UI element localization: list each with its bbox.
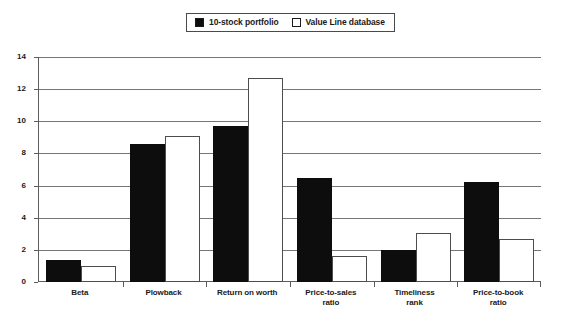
bar-0-3: [297, 178, 332, 282]
x-cat-label-5: Price-to-bookratio: [456, 288, 540, 307]
x-tick-mark-end: [540, 282, 541, 287]
x-cat-label-0: Beta: [38, 288, 122, 298]
x-cat-label-line: Beta: [38, 288, 122, 298]
x-cat-label-2: Return on worth: [205, 288, 289, 298]
y-tick-label-4: 4: [22, 214, 26, 222]
x-tick-mark-4: [374, 282, 375, 287]
x-tick-mark-1: [123, 282, 124, 287]
x-tick-mark-2: [206, 282, 207, 287]
y-tick-label-0: 0: [22, 278, 26, 286]
y-tick-mark-0: [34, 282, 38, 283]
bar-0-1: [130, 144, 165, 282]
legend-entry-value-line-database: Value Line database: [292, 18, 385, 27]
bar-1-1: [165, 136, 200, 282]
y-tick-label-10: 10: [17, 117, 26, 125]
x-cat-label-line: Price-to-sales: [289, 288, 373, 298]
x-axis-category-labels: BetaPlowbackReturn on worthPrice-to-sale…: [38, 288, 540, 316]
bar-0-4: [381, 250, 416, 282]
x-cat-label-line: Plowback: [122, 288, 206, 298]
y-axis: 02468101214: [0, 57, 32, 282]
chart-legend: 10-stock portfolio Value Line database: [186, 13, 395, 32]
bar-series-layer: [39, 57, 541, 282]
y-tick-label-8: 8: [22, 149, 26, 157]
bar-1-5: [499, 239, 534, 282]
y-tick-label-12: 12: [17, 85, 26, 93]
bar-0-5: [464, 182, 499, 282]
x-cat-label-line: Return on worth: [205, 288, 289, 298]
bar-1-0: [81, 266, 116, 282]
bar-1-2: [248, 78, 283, 282]
x-cat-label-line: ratio: [289, 298, 373, 308]
x-cat-label-4: Timelinessrank: [373, 288, 457, 307]
hollow-square-swatch-icon: [292, 18, 301, 27]
bar-1-3: [332, 256, 367, 282]
legend-label-series-2: Value Line database: [306, 18, 385, 27]
x-cat-label-line: ratio: [456, 298, 540, 308]
x-cat-label-3: Price-to-salesratio: [289, 288, 373, 307]
legend-label-series-1: 10-stock portfolio: [209, 18, 279, 27]
filled-square-swatch-icon: [195, 18, 204, 27]
x-cat-label-line: Price-to-book: [456, 288, 540, 298]
legend-entry-10-stock-portfolio: 10-stock portfolio: [195, 18, 279, 27]
x-cat-label-line: rank: [373, 298, 457, 308]
bar-0-0: [46, 260, 81, 283]
y-tick-label-2: 2: [22, 246, 26, 254]
bar-1-4: [416, 233, 451, 282]
bar-0-2: [213, 126, 248, 282]
plot-area: [38, 57, 541, 282]
x-cat-label-1: Plowback: [122, 288, 206, 298]
x-tick-mark-3: [290, 282, 291, 287]
y-tick-label-14: 14: [17, 53, 26, 61]
x-cat-label-line: Timeliness: [373, 288, 457, 298]
x-tick-mark-5: [457, 282, 458, 287]
y-tick-label-6: 6: [22, 182, 26, 190]
